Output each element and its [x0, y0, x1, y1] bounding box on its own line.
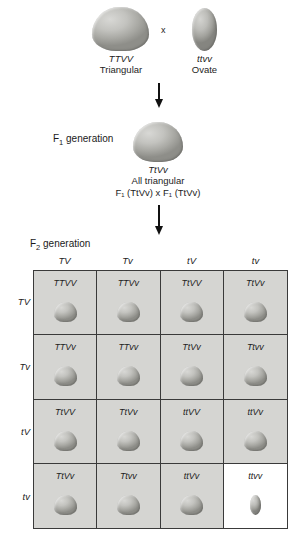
punnett-cell[interactable]: TTvv [97, 335, 160, 399]
punnett-cell-genotype: TtVv [161, 342, 223, 352]
punnett-cell[interactable]: Ttvv [97, 464, 160, 528]
f1-genotype: TtVv [128, 164, 188, 175]
punnett-cell-seed [34, 297, 96, 327]
punnett-cell-seed [97, 490, 159, 520]
punnett-cell-seed [97, 426, 159, 456]
punnett-cell-seed [97, 297, 159, 327]
punnett-cell-genotype: Ttvv [97, 471, 159, 481]
seed-triangular-icon [244, 366, 267, 386]
parent-cross-symbol: x [161, 25, 166, 35]
arrow-parents-to-f1 [153, 83, 165, 109]
f1-seed-triangular [133, 122, 183, 162]
punnett-cell-seed [224, 361, 287, 391]
punnett-cell-genotype: TtVV [34, 407, 96, 417]
punnett-cell[interactable]: TTVV [34, 271, 97, 335]
seed-triangular-icon [117, 431, 140, 451]
seed-triangular-icon [180, 366, 203, 386]
seed-triangular-icon [244, 431, 267, 451]
punnett-cell[interactable]: ttVv [161, 464, 224, 528]
punnett-cell-seed [34, 426, 96, 456]
punnett-cell-genotype: TTVv [97, 278, 159, 288]
punnett-cell[interactable]: TtVv [34, 464, 97, 528]
punnett-cell-genotype: Ttvv [224, 342, 287, 352]
f2-generation-label-tail: generation [40, 238, 90, 249]
row-header-gamete-0: TV [6, 296, 30, 307]
punnett-cell-genotype: TTVV [34, 278, 96, 288]
seed-triangular-icon [117, 366, 140, 386]
seed-triangular-icon [117, 495, 140, 515]
punnett-cell[interactable]: TtVv [97, 400, 160, 464]
punnett-cell-seed [224, 426, 287, 456]
parent-left-seed-triangular [92, 7, 149, 51]
punnett-cell-genotype: ttVV [161, 407, 223, 417]
seed-triangular-icon [180, 302, 203, 322]
punnett-cell-genotype: ttVv [224, 407, 287, 417]
punnett-cell-genotype: TtVv [34, 471, 96, 481]
punnett-cell[interactable]: ttVV [161, 400, 224, 464]
seed-triangular-icon [54, 495, 77, 515]
row-header-gamete-2: tV [6, 426, 30, 437]
punnett-cell-seed [161, 297, 223, 327]
column-header-gamete-1: Tv [96, 255, 159, 266]
f2-generation-label: F2 generation [30, 238, 90, 252]
parent-right-genotype: ttvv [177, 53, 232, 64]
column-header-gamete-0: TV [33, 255, 96, 266]
punnett-cell-genotype: TTVv [34, 342, 96, 352]
punnett-cell-seed [161, 490, 223, 520]
f1-generation-label: F1 generation [53, 133, 113, 147]
seed-triangular-icon [180, 495, 203, 515]
punnett-cell[interactable]: TtVV [34, 400, 97, 464]
punnett-cell-seed [161, 361, 223, 391]
punnett-cell-genotype: TTvv [97, 342, 159, 352]
seed-triangular-icon [117, 302, 140, 322]
punnett-cell[interactable]: TtVv [224, 271, 287, 335]
punnett-cell-seed [34, 361, 96, 391]
seed-triangular-icon [244, 302, 267, 322]
punnett-cell-genotype: TtVv [97, 407, 159, 417]
seed-ovate-icon [250, 495, 261, 515]
row-header-gamete-3: tv [6, 491, 30, 502]
punnett-cell[interactable]: Ttvv [224, 335, 287, 399]
seed-triangular-icon [54, 302, 77, 322]
punnett-cell-ovate-recessive[interactable]: ttvv [224, 464, 287, 528]
parent-right-phenotype: Ovate [177, 64, 232, 75]
punnett-cell-seed [34, 490, 96, 520]
punnett-cell-seed [224, 490, 287, 520]
punnett-cell[interactable]: TtVV [161, 271, 224, 335]
punnett-cell[interactable]: TtVv [161, 335, 224, 399]
punnett-cell[interactable]: TTVv [34, 335, 97, 399]
punnett-cell[interactable]: TTVv [97, 271, 160, 335]
punnett-cell-genotype: TtVv [224, 278, 287, 288]
parent-right-seed-ovate [192, 8, 217, 51]
punnett-square-grid: TTVV TTVv TtVV TtVv TTVv TTvv TtVv Ttvv … [33, 270, 288, 529]
seed-triangular-icon [180, 431, 203, 451]
punnett-cell-seed [224, 297, 287, 327]
f1-generation-row: F1 generation TtVv All triangular F₁ (Tt… [0, 112, 299, 204]
seed-triangular-icon [54, 431, 77, 451]
parent-left-genotype: TTVV [90, 53, 152, 64]
parent-left-phenotype: Triangular [85, 64, 157, 75]
f1-self-cross: F₁ (TtVv) x F₁ (TtVv) [88, 187, 228, 198]
punnett-cell-genotype: ttVv [161, 471, 223, 481]
arrow-f1-to-f2 [153, 205, 165, 237]
parent-generation-row: TTVV Triangular x ttvv Ovate [0, 0, 299, 75]
f1-phenotype: All triangular [113, 175, 203, 186]
punnett-cell-seed [97, 361, 159, 391]
punnett-cell-genotype: TtVV [161, 278, 223, 288]
punnett-cell[interactable]: ttVv [224, 400, 287, 464]
row-header-gamete-1: Tv [6, 361, 30, 372]
column-header-gamete-2: tV [160, 255, 223, 266]
seed-triangular-icon [54, 366, 77, 386]
punnett-cell-genotype: ttvv [224, 471, 287, 481]
column-header-gamete-3: tv [224, 255, 287, 266]
f1-generation-label-tail: generation [63, 133, 113, 144]
punnett-cell-seed [161, 426, 223, 456]
